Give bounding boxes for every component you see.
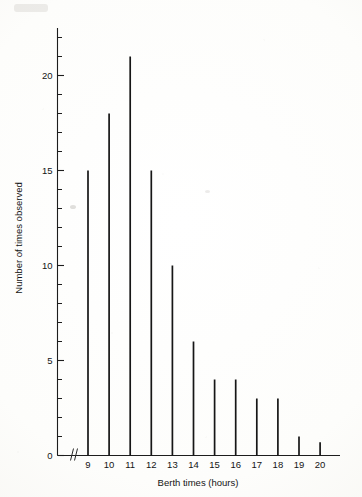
x-tick-label: 15 (209, 459, 220, 470)
x-tick-label: 17 (252, 459, 263, 470)
x-tick-label: 12 (146, 459, 157, 470)
x-tick-label: 18 (273, 459, 284, 470)
x-axis-title: Berth times (hours) (158, 477, 239, 488)
data-spikes (88, 57, 320, 456)
y-tick-label: 0 (47, 450, 52, 461)
x-tick-label: 13 (167, 459, 178, 470)
x-tick-label: 16 (230, 459, 241, 470)
x-tick-label: 9 (85, 459, 90, 470)
y-tick-label: 20 (42, 70, 53, 81)
y-axis-tick-labels: 05101520 (42, 70, 53, 461)
y-axis-ticks (58, 38, 65, 456)
x-tick-label: 14 (188, 459, 199, 470)
berth-times-spike-chart: 05101520 91011121314151617181920 Berth t… (0, 0, 362, 497)
chart-figure: 05101520 91011121314151617181920 Berth t… (0, 0, 362, 497)
axis-break-icon (71, 449, 78, 461)
y-tick-label: 10 (42, 260, 53, 271)
y-tick-label: 5 (47, 355, 52, 366)
y-tick-label: 15 (42, 165, 53, 176)
x-tick-label: 10 (104, 459, 115, 470)
y-axis-title: Number of times observed (13, 182, 24, 293)
x-tick-label: 11 (125, 459, 135, 470)
x-tick-label: 19 (294, 459, 305, 470)
x-tick-label: 20 (315, 459, 326, 470)
x-axis-tick-labels: 91011121314151617181920 (85, 459, 325, 470)
